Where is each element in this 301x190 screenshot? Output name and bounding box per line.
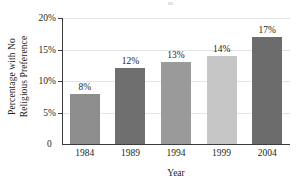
bar-2004[interactable]: 17%	[252, 37, 282, 144]
plot-area: 5%10%15%20% 8%198412%198913%199414%19991…	[62, 18, 290, 145]
x-axis-tick-label: 1989	[121, 148, 140, 158]
bar-value-label: 13%	[167, 50, 184, 60]
x-axis-tick-label: 2004	[258, 148, 277, 158]
y-axis-title-line-2: Religious Preference	[18, 12, 30, 142]
x-axis-tick-label: 1994	[166, 148, 185, 158]
bar-group-1999: 14%1999	[199, 18, 245, 145]
y-axis-tick-label: 20%	[39, 13, 56, 23]
bar-1994[interactable]: 13%	[161, 62, 191, 144]
bar-value-label: 14%	[213, 44, 230, 54]
y-axis-tick-label: 5%	[43, 108, 56, 118]
y-axis-title: Percentage with No Religious Preference	[7, 12, 30, 142]
bar-chart-figure: Percentage with No Religious Preference …	[0, 0, 301, 190]
bar-1989[interactable]: 12%	[115, 68, 145, 144]
bar-group-1989: 12%1989	[108, 18, 154, 145]
x-axis-tick-label: 1999	[212, 148, 231, 158]
y-axis-zero-label: 0	[47, 139, 52, 149]
x-axis-title: Year	[62, 168, 290, 178]
x-axis-tick-label: 1984	[75, 148, 94, 158]
bar-group-2004: 17%2004	[244, 18, 290, 145]
y-axis-tick-label: 10%	[39, 76, 56, 86]
bar-1999[interactable]: 14%	[207, 56, 237, 144]
bar-group-1994: 13%1994	[153, 18, 199, 145]
bar-value-label: 17%	[258, 25, 275, 35]
bar-1984[interactable]: 8%	[70, 94, 100, 144]
bar-value-label: 8%	[78, 82, 91, 92]
bar-group-1984: 8%1984	[62, 18, 108, 145]
y-axis-tick-label: 15%	[39, 45, 56, 55]
bar-value-label: 12%	[122, 56, 139, 66]
y-axis-title-line-1: Percentage with No	[7, 12, 19, 142]
scan-artifact	[168, 2, 173, 5]
